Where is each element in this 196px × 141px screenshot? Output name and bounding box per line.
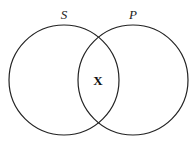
- venn-diagram: S P X: [0, 0, 196, 141]
- label-s: S: [61, 7, 68, 22]
- label-p: P: [128, 7, 137, 22]
- intersection-mark: X: [93, 73, 103, 88]
